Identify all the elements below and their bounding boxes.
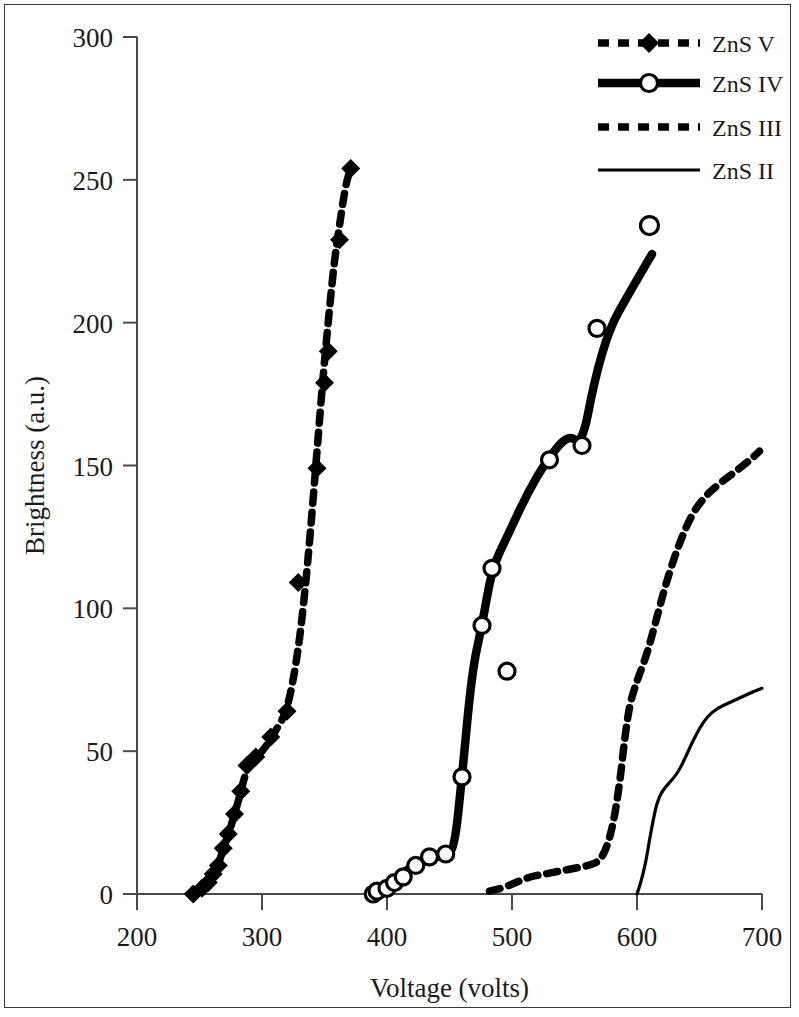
data-point-marker <box>422 849 438 865</box>
series-line-zns-v <box>193 168 351 894</box>
y-axis-tick-label: 300 <box>73 23 114 53</box>
x-axis-title: Voltage (volts) <box>370 973 529 1003</box>
x-axis-tick-label: 500 <box>492 922 533 952</box>
data-point-marker <box>484 560 500 576</box>
x-axis-tick-label: 200 <box>117 922 158 952</box>
y-axis-tick-label: 250 <box>73 166 114 196</box>
data-point-marker <box>225 805 244 824</box>
y-axis-tick-label: 150 <box>73 452 114 482</box>
data-point-marker <box>499 663 515 679</box>
series-line-zns-iv <box>372 254 652 894</box>
legend-label-zns-iii: ZnS III <box>712 115 782 141</box>
legend-label-zns-v: ZnS V <box>712 31 776 57</box>
data-point-marker <box>589 320 605 336</box>
x-axis-tick-label: 400 <box>367 922 408 952</box>
legend-marker-circle-icon <box>641 75 658 92</box>
x-axis-tick-label: 700 <box>742 922 783 952</box>
data-point-marker <box>438 846 454 862</box>
x-axis-tick-label: 300 <box>242 922 283 952</box>
data-point-marker <box>574 438 590 454</box>
y-axis-tick-label: 0 <box>100 880 114 910</box>
series-line-zns-iii <box>490 451 760 891</box>
legend-label-zns-iv: ZnS IV <box>712 71 784 97</box>
data-point-marker <box>308 459 327 478</box>
data-point-marker <box>315 373 334 392</box>
data-point-marker <box>641 217 659 235</box>
legend-marker-diamond-icon <box>639 33 659 53</box>
data-point-marker <box>231 782 250 801</box>
x-axis-tick-label: 600 <box>617 922 658 952</box>
y-axis-tick-label: 50 <box>86 737 113 767</box>
figure-container: 050100150200250300200300400500600700Volt… <box>0 0 799 1017</box>
series-line-zns-ii <box>637 688 762 894</box>
data-point-marker <box>542 452 558 468</box>
data-point-marker <box>330 230 349 249</box>
y-axis-tick-label: 100 <box>73 594 114 624</box>
y-axis-title: Brightness (a.u.) <box>20 376 50 555</box>
data-point-marker <box>341 159 360 178</box>
y-axis-tick-label: 200 <box>73 309 114 339</box>
chart-canvas: 050100150200250300200300400500600700Volt… <box>0 0 799 1017</box>
data-point-marker <box>474 617 490 633</box>
data-point-marker <box>454 769 470 785</box>
legend-label-zns-ii: ZnS II <box>712 158 774 184</box>
